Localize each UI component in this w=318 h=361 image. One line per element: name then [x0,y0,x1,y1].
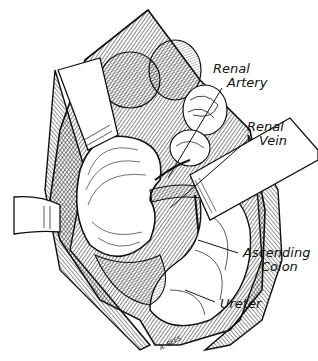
label-renal-artery: Renal Artery [213,62,267,90]
label-renal-artery-line1: Renal [213,62,267,76]
label-ascending-colon: Ascending Colon [243,246,310,274]
label-ureter: Ureter [220,297,261,311]
label-ureter-line1: Ureter [220,297,261,311]
anatomical-illustration: Renal Artery Renal Vein Ascending Colon … [0,0,318,361]
retractor-left [14,197,60,234]
label-renal-vein-line2: Vein [259,134,287,148]
illustration-artwork [0,0,318,361]
label-ascending-colon-line1: Ascending [243,246,310,260]
label-renal-vein: Renal Vein [247,120,287,148]
label-renal-artery-line2: Artery [227,76,267,90]
label-renal-vein-line1: Renal [247,120,287,134]
label-ascending-colon-line2: Colon [261,260,310,274]
kidney [77,136,161,256]
